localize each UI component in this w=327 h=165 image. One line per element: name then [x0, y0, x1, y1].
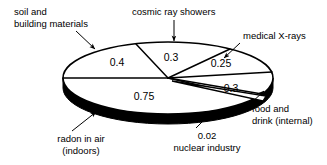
label-radon-line-1: radon in air [57, 133, 105, 145]
label-medical-line-1: medical X-rays [243, 30, 306, 42]
label-medical-x-rays: medical X-rays [243, 30, 306, 42]
label-cosmic-line-1: cosmic ray showers [132, 6, 215, 18]
label-nuclear-industry: 0.02 nuclear industry [173, 130, 240, 153]
label-food-and-drink-internal: food and drink (internal) [252, 103, 313, 126]
label-soil-line-1: soil and [14, 6, 88, 18]
slice-value-soil: 0.4 [110, 56, 125, 68]
label-soil-line-2: building materials [14, 18, 88, 30]
pie-chart-figure: soil and building materials cosmic ray s… [0, 0, 327, 165]
label-food-line-2: drink (internal) [252, 115, 313, 127]
label-cosmic-ray-showers: cosmic ray showers [132, 6, 215, 18]
slice-value-food: 0.3 [224, 82, 239, 94]
leader-soil [76, 31, 95, 49]
label-radon-line-2: (indoors) [57, 145, 105, 157]
label-food-line-1: food and [252, 103, 313, 115]
label-radon-in-air-indoors: radon in air (indoors) [57, 133, 105, 156]
slice-value-radon: 0.75 [134, 90, 154, 102]
leader-radon [72, 112, 96, 131]
slice-value-medical: 0.25 [211, 57, 231, 69]
label-nuclear-line-2: nuclear industry [173, 142, 240, 154]
label-soil-and-building-materials: soil and building materials [14, 6, 88, 29]
slice-value-cosmic: 0.3 [164, 51, 179, 63]
label-nuclear-value: 0.02 [173, 130, 240, 142]
